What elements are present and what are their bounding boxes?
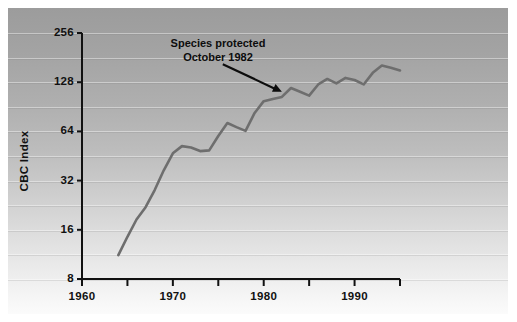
y-tick-label: 128 [28,75,74,87]
y-tick-label: 256 [28,26,74,38]
y-tick-label: 16 [28,223,74,235]
y-axis-title: CBC Index [18,116,30,206]
y-tick-label: 8 [28,272,74,284]
x-tick-label: 1960 [57,290,107,302]
x-tick-label: 1980 [239,290,289,302]
annotation-arrow [223,64,282,92]
y-tick-label: 64 [28,124,74,136]
annotation-label: Species protected October 1982 [148,36,288,64]
annotation-line-2: October 1982 [148,50,288,64]
annotation-line-1: Species protected [148,36,288,50]
chart-figure: 8163264128256 1960197019801990 CBC Index… [0,0,517,322]
y-tick-label: 32 [28,174,74,186]
data-series [118,65,400,255]
x-tick-label: 1990 [330,290,380,302]
x-tick-label: 1970 [148,290,198,302]
